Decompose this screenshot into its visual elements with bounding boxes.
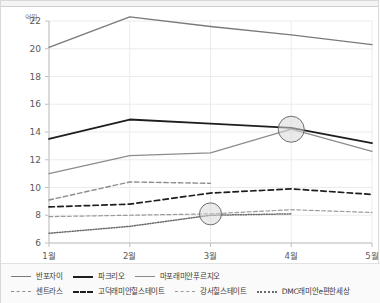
legend-item-강서힐스테이트[interactable]: 강서힐스테이트: [175, 287, 247, 296]
line-chart-svg: 68101214161820221월2월3월4월5월: [1, 7, 380, 262]
legend-swatch-dashed-line-icon: [11, 287, 31, 295]
y-tick-label: 14: [30, 127, 42, 137]
legend-item-반포자이[interactable]: 반포자이: [11, 272, 63, 281]
legend-swatch-solid-line-icon: [135, 272, 155, 280]
legend-label: 센트라스: [36, 287, 63, 296]
legend-label: 반포자이: [36, 272, 63, 281]
legend-row-1: 반포자이파크리오마포래미안푸르지오: [11, 269, 372, 283]
highlight-marker-마포래미안푸르지오: [278, 116, 304, 142]
y-tick-label: 18: [30, 72, 42, 82]
y-tick-label: 20: [30, 44, 42, 54]
x-tick-label: 3월: [204, 251, 217, 261]
legend-swatch-dashed-line-icon: [73, 287, 93, 295]
y-tick-label: 6: [35, 238, 41, 248]
legend-swatch-dotted-line-icon: [257, 287, 277, 295]
legend-row-2: 센트라스고덕래미안힐스테이트강서힐스테이트DMC래미안e편한세상: [11, 284, 372, 298]
legend-label: 강서힐스테이트: [200, 287, 247, 296]
x-tick-label: 1월: [42, 251, 55, 261]
y-tick-label: 16: [30, 99, 42, 109]
x-tick-label: 5월: [365, 251, 378, 261]
legend-swatch-dashed-line-icon: [175, 287, 195, 295]
legend-swatch-solid-line-icon: [73, 272, 93, 280]
y-tick-label: 22: [30, 16, 41, 26]
legend-label: 파크리오: [98, 272, 125, 281]
legend-label: 마포래미안푸르지오: [160, 272, 220, 281]
y-tick-label: 8: [35, 210, 41, 220]
x-tick-label: 4월: [285, 251, 298, 261]
chart-legend: 반포자이파크리오마포래미안푸르지오 센트라스고덕래미안힐스테이트강서힐스테이트D…: [1, 263, 380, 303]
y-tick-label: 12: [30, 155, 41, 165]
legend-item-센트라스[interactable]: 센트라스: [11, 287, 63, 296]
legend-label: DMC래미안e편한세상: [282, 287, 350, 296]
legend-item-파크리오[interactable]: 파크리오: [73, 272, 125, 281]
data-line-DMC래미안e편한세상: [49, 214, 291, 233]
legend-item-마포래미안푸르지오[interactable]: 마포래미안푸르지오: [135, 272, 220, 281]
legend-item-DMC래미안e편한세상[interactable]: DMC래미안e편한세상: [257, 287, 350, 296]
x-tick-label: 2월: [123, 251, 136, 261]
legend-item-고덕래미안힐스테이트[interactable]: 고덕래미안힐스테이트: [73, 287, 165, 296]
chart-plot-area: 68101214161820221월2월3월4월5월: [1, 7, 380, 262]
y-tick-label: 10: [30, 183, 42, 193]
legend-swatch-solid-line-icon: [11, 272, 31, 280]
highlight-marker-강서힐스테이트: [200, 203, 222, 225]
legend-label: 고덕래미안힐스테이트: [98, 287, 165, 296]
